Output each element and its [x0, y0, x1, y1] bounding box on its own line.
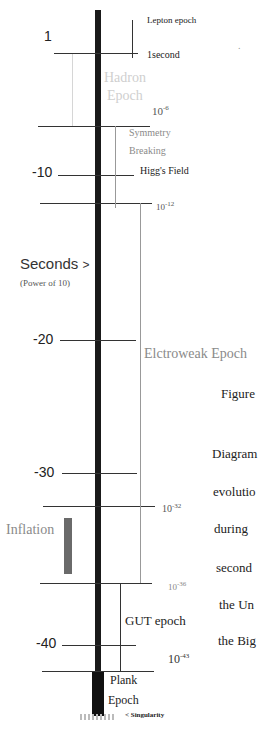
- line-10e-43: [42, 671, 154, 672]
- caption-line-3: evolutio: [213, 484, 256, 500]
- caption-line-5: second: [216, 560, 252, 576]
- marker-10e-43: 10-43: [168, 652, 189, 667]
- planck-epoch-bar: [92, 672, 104, 716]
- electroweak-epoch-bracket: [140, 203, 141, 583]
- axis-subtitle: (Power of 10): [20, 278, 70, 288]
- tick-label-minus-40: -40: [36, 635, 56, 651]
- marker-10e-36: 10-36: [168, 580, 186, 592]
- axis-title-arrow: >: [83, 258, 90, 272]
- tick-label-minus-10: -10: [32, 164, 52, 180]
- hadron-epoch-label-2: Epoch: [107, 88, 143, 104]
- symmetry-breaking-label-1: Symmetry: [129, 127, 171, 138]
- caption-line-6: the Un: [219, 597, 254, 613]
- planck-epoch-label-2: Epoch: [108, 693, 139, 708]
- electroweak-epoch-label: Elctroweak Epoch: [144, 346, 247, 362]
- singularity-marker: [80, 714, 116, 720]
- planck-epoch-label-1: Plank: [110, 673, 137, 688]
- hadron-epoch-bracket: [72, 54, 73, 126]
- caption-line-4: during: [214, 521, 248, 537]
- singularity-label: < Singularity: [125, 711, 164, 719]
- gut-epoch-bracket: [120, 583, 121, 671]
- marker-1-second: 1second: [147, 49, 180, 60]
- line-10e-36: [40, 583, 152, 584]
- symmetry-breaking-bracket: [115, 126, 116, 208]
- line-10e-32: [43, 506, 155, 507]
- line-1-second: [54, 53, 138, 54]
- caption-line-7: the Big: [218, 633, 256, 649]
- axis-title-text: Seconds: [20, 255, 78, 272]
- line-10e-10: [58, 175, 134, 176]
- axis-title: Seconds >: [20, 255, 90, 272]
- tick-label-minus-30: -30: [34, 464, 54, 480]
- marker-10e-32: 10-32: [162, 502, 181, 514]
- line-10e-20: [60, 340, 136, 341]
- inflation-label: Inflation: [6, 522, 54, 538]
- time-axis: [95, 10, 101, 682]
- inflation-bar: [64, 518, 72, 574]
- lepton-epoch-bracket: [132, 20, 133, 58]
- higgs-field-label: Higg's Field: [140, 165, 189, 176]
- line-10e-30: [62, 473, 137, 474]
- lepton-epoch-label: Lepton epoch: [147, 15, 196, 25]
- stray-mark: .: [238, 40, 241, 51]
- hadron-epoch-label-1: Hadron: [104, 70, 146, 86]
- caption-line-2: Diagram: [212, 446, 257, 462]
- caption-line-1: Figure: [221, 386, 255, 402]
- tick-label-minus-20: -20: [33, 331, 53, 347]
- tick-label-1: 1: [44, 28, 52, 44]
- line-10e-40: [62, 645, 136, 646]
- gut-epoch-label: GUT epoch: [125, 613, 186, 629]
- marker-10e-12: 10-12: [156, 200, 174, 212]
- marker-10e-6: 10-6: [152, 104, 169, 117]
- symmetry-breaking-label-2: Breaking: [129, 145, 166, 156]
- line-10e-12: [40, 203, 152, 204]
